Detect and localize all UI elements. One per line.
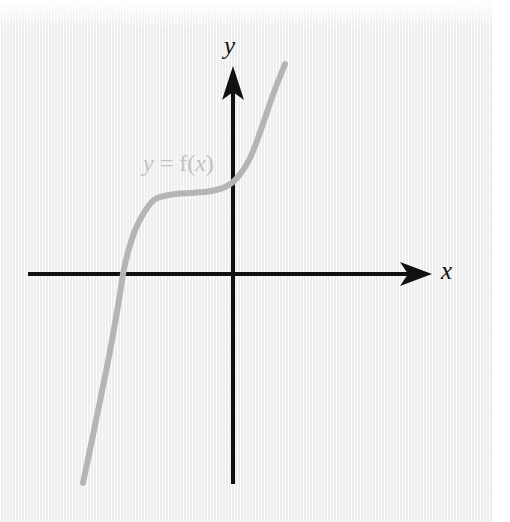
coordinate-plot	[0, 0, 510, 522]
curve-label-lhs: y	[143, 150, 154, 176]
curve-label-equals: =	[154, 150, 180, 176]
curve-label-argument: x	[195, 150, 206, 176]
y-axis-label: y	[224, 33, 235, 58]
x-axis-label: x	[441, 258, 452, 283]
curve-equation-label: y = f(x)	[143, 151, 214, 175]
curve-label-open-paren: (	[187, 150, 195, 176]
figure-root: y x y = f(x)	[0, 0, 510, 522]
curve-label-function-name: f	[179, 150, 187, 176]
curve-label-close-paren: )	[206, 150, 214, 176]
